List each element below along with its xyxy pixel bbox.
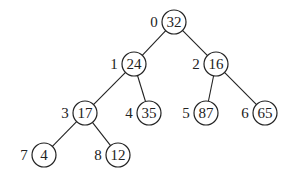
tree-node: 241 xyxy=(110,52,146,76)
node-value: 87 xyxy=(199,105,215,121)
node-index-label: 8 xyxy=(94,147,102,163)
tree-node: 162 xyxy=(192,52,228,76)
node-index-label: 3 xyxy=(61,105,69,121)
nodes: 32024116217335487565647128 xyxy=(20,10,277,167)
heap-tree-diagram: 32024116217335487565647128 xyxy=(0,0,291,177)
node-index-label: 2 xyxy=(192,56,200,72)
node-value: 17 xyxy=(78,105,94,121)
node-value: 65 xyxy=(258,105,273,121)
node-index-label: 6 xyxy=(241,105,249,121)
tree-node: 320 xyxy=(150,10,186,34)
edge-1-3 xyxy=(93,72,125,104)
edge-1-4 xyxy=(138,75,146,101)
edge-3-8 xyxy=(92,122,110,145)
edge-0-1 xyxy=(142,31,165,56)
node-index-label: 1 xyxy=(110,56,118,72)
node-value: 12 xyxy=(111,147,126,163)
edge-2-5 xyxy=(208,76,213,101)
node-index-label: 4 xyxy=(125,105,133,121)
edge-3-7 xyxy=(52,122,76,147)
node-value: 16 xyxy=(209,56,225,72)
edge-2-6 xyxy=(224,72,256,104)
node-index-label: 5 xyxy=(182,105,190,121)
node-value: 32 xyxy=(167,14,182,30)
edge-0-2 xyxy=(182,30,207,55)
tree-node: 173 xyxy=(61,101,97,125)
node-value: 24 xyxy=(127,56,143,72)
tree-node: 875 xyxy=(182,101,218,125)
node-value: 35 xyxy=(142,105,157,121)
tree-node: 354 xyxy=(125,101,161,125)
tree-node: 47 xyxy=(20,143,56,167)
edges xyxy=(52,30,256,146)
tree-node: 656 xyxy=(241,101,277,125)
node-value: 4 xyxy=(40,147,48,163)
node-index-label: 7 xyxy=(20,147,28,163)
node-index-label: 0 xyxy=(150,14,158,30)
tree-node: 128 xyxy=(94,143,130,167)
